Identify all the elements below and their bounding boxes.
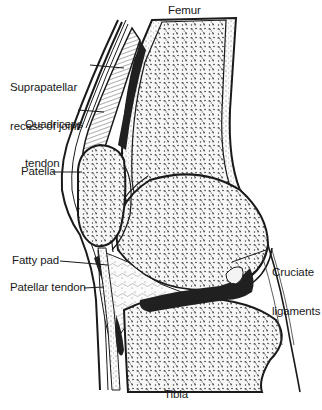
label-quadriceps-tendon: Quadriceps tendon [25,92,83,196]
patella [78,145,125,246]
label-cruciate-ligaments: Cruciate ligaments [272,240,320,344]
label-cruciate-line1: Cruciate [272,266,320,279]
label-patellar-tendon: Patellar tendon [10,281,86,294]
label-fatty-pad: Fatty pad [12,254,59,267]
label-tibia: Tibia [164,388,188,401]
label-patella: Patella [21,165,55,178]
label-femur: Femur [168,4,201,17]
label-cruciate-line2: ligaments [272,305,320,318]
label-quadriceps-line1: Quadriceps [25,118,83,131]
knee-diagram: Femur Suprapatellar recess of joint Quad… [0,0,322,410]
